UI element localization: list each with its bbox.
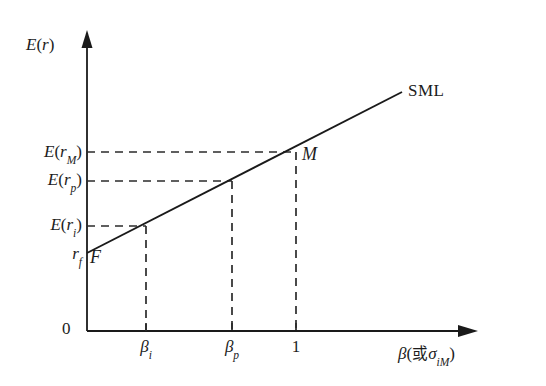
paren-close: ): [76, 142, 82, 161]
sml-chart-figure: [0, 0, 546, 386]
fn-E: E: [50, 215, 60, 234]
y-axis-title: E(r): [26, 36, 54, 53]
fn-E: E: [44, 142, 54, 161]
y-tick-label-rf: rf: [0, 245, 82, 266]
subscript-iM: iM: [437, 356, 450, 369]
paren-close: ): [49, 35, 55, 54]
y-tick-label-E-rM: E(rM): [0, 143, 82, 164]
y-tick-label-E-ri: E(ri): [0, 216, 82, 237]
y-axis-title-fn: E: [26, 35, 36, 54]
x-axis-title: β(或σiM): [398, 345, 455, 366]
subscript-i: i: [73, 227, 76, 240]
y-axis-title-var: r: [42, 35, 49, 54]
paren-close: ): [76, 215, 82, 234]
x-tick-label-beta-p: βp: [212, 338, 252, 359]
y-tick-label-E-rp: E(rp): [0, 171, 82, 192]
paren-close: ): [449, 344, 455, 363]
fn-E: E: [48, 170, 58, 189]
var-r: r: [64, 170, 71, 189]
greek-sigma: σ: [428, 344, 436, 363]
sml-label: SML: [408, 82, 444, 99]
subscript-p: p: [71, 182, 77, 195]
subscript-p: p: [233, 349, 239, 362]
cjk-or-character: 或: [412, 344, 428, 363]
subscript-i: i: [149, 349, 152, 362]
x-tick-label-beta-i: βi: [126, 338, 166, 359]
paren-close: ): [76, 170, 82, 189]
origin-label: 0: [62, 320, 71, 337]
subscript-M: M: [67, 154, 77, 167]
subscript-f: f: [79, 256, 82, 269]
point-label-F: F: [90, 248, 101, 266]
x-tick-label-one: 1: [276, 338, 316, 355]
point-label-M: M: [302, 145, 317, 163]
var-r: r: [60, 142, 67, 161]
greek-beta: β: [140, 337, 148, 356]
var-r: r: [72, 244, 79, 263]
